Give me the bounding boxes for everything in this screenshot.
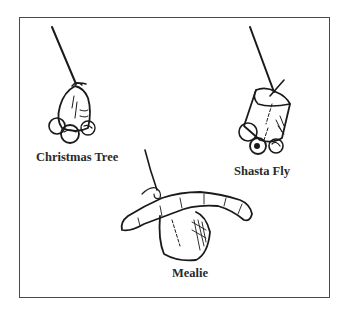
shasta-fly-label: Shasta Fly [234, 164, 290, 179]
mealie-line [145, 150, 157, 190]
christmas-tree-detail [72, 96, 88, 118]
mealie-seam [172, 220, 180, 246]
christmas-tree-body [58, 86, 90, 131]
christmas-tree-label: Christmas Tree [36, 150, 118, 165]
shasta-fly-lure [239, 27, 290, 154]
christmas-tree-bead [49, 118, 65, 134]
christmas-tree-bead [61, 125, 79, 143]
shasta-fly-line [250, 27, 274, 92]
shasta-fly-seam [264, 104, 272, 140]
christmas-tree-line [52, 27, 76, 84]
mealie-label: Mealie [172, 266, 208, 281]
mealie-loop [142, 188, 161, 199]
mealie-worm [122, 192, 252, 230]
christmas-tree-lure [49, 27, 95, 143]
shasta-fly-bead-detail [272, 142, 280, 146]
mealie-lure [122, 150, 252, 260]
mealie-hatch [192, 220, 206, 250]
shasta-fly-bead-eye [254, 143, 260, 149]
